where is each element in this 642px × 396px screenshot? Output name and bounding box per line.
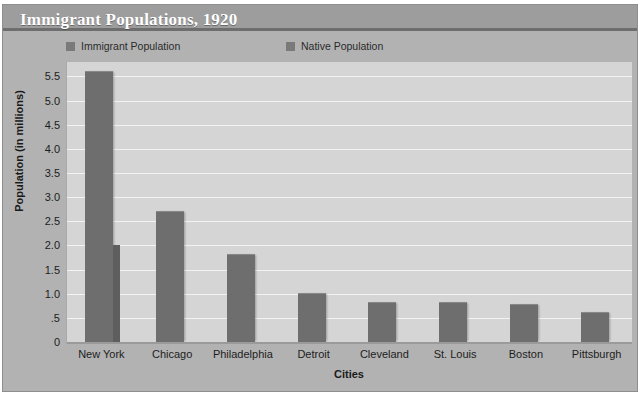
x-axis-tick-label: New York xyxy=(78,348,124,360)
y-axis-tick-label: 4.5 xyxy=(45,119,60,131)
bar-native-population xyxy=(113,245,120,342)
y-axis-tick-label: 1.5 xyxy=(45,264,60,276)
bar-immigrant-population xyxy=(368,302,396,342)
y-axis-tick-label: 3.5 xyxy=(45,167,60,179)
bars-layer xyxy=(67,62,632,342)
x-axis-tick-label: Chicago xyxy=(152,348,192,360)
x-axis-baseline xyxy=(67,342,632,344)
bar-immigrant-population xyxy=(298,293,326,342)
y-axis-tick-label: .5 xyxy=(51,312,60,324)
x-axis-ticks: New YorkChicagoPhiladelphiaDetroitClevel… xyxy=(66,348,632,364)
bar-immigrant-population xyxy=(510,304,538,342)
x-axis-tick-label: Pittsburgh xyxy=(572,348,622,360)
bar-immigrant-population xyxy=(85,71,113,342)
y-axis-tick-label: 1.0 xyxy=(45,288,60,300)
y-axis-tick-label: 3.0 xyxy=(45,191,60,203)
legend-item-immigrant-population: Immigrant Population xyxy=(66,40,180,52)
plot-area xyxy=(66,62,632,344)
chart-figure: Immigrant Populations, 1920 Immigrant Po… xyxy=(0,0,642,396)
legend-label: Immigrant Population xyxy=(81,40,180,52)
legend-swatch-icon xyxy=(286,42,295,51)
x-axis-label: Cities xyxy=(66,368,632,380)
x-axis-tick-label: St. Louis xyxy=(434,348,477,360)
y-axis-tick-label: 5.5 xyxy=(45,70,60,82)
bar-immigrant-population xyxy=(439,302,467,342)
chart-title-band: Immigrant Populations, 1920 xyxy=(3,5,637,31)
y-axis-tick-label: 2.0 xyxy=(45,239,60,251)
chart-legend: Immigrant Population Native Population xyxy=(0,40,642,58)
x-axis-tick-label: Boston xyxy=(509,348,543,360)
x-axis-tick-label: Cleveland xyxy=(360,348,409,360)
x-axis-tick-label: Philadelphia xyxy=(213,348,273,360)
legend-label: Native Population xyxy=(301,40,383,52)
legend-item-native-population: Native Population xyxy=(286,40,383,52)
page-title: Immigrant Populations, 1920 xyxy=(20,10,237,30)
y-axis-ticks: 0.51.01.52.02.53.03.54.04.55.05.5 xyxy=(26,62,60,344)
y-axis-tick-label: 0 xyxy=(54,336,60,348)
y-axis-tick-label: 4.0 xyxy=(45,143,60,155)
legend-swatch-icon xyxy=(66,42,75,51)
bar-immigrant-population xyxy=(227,254,255,342)
y-axis-tick-label: 5.0 xyxy=(45,95,60,107)
y-axis-label: Population (in millions) xyxy=(13,76,25,226)
bar-immigrant-population xyxy=(156,211,184,342)
x-axis-tick-label: Detroit xyxy=(297,348,329,360)
y-axis-tick-label: 2.5 xyxy=(45,215,60,227)
bar-immigrant-population xyxy=(581,312,609,342)
